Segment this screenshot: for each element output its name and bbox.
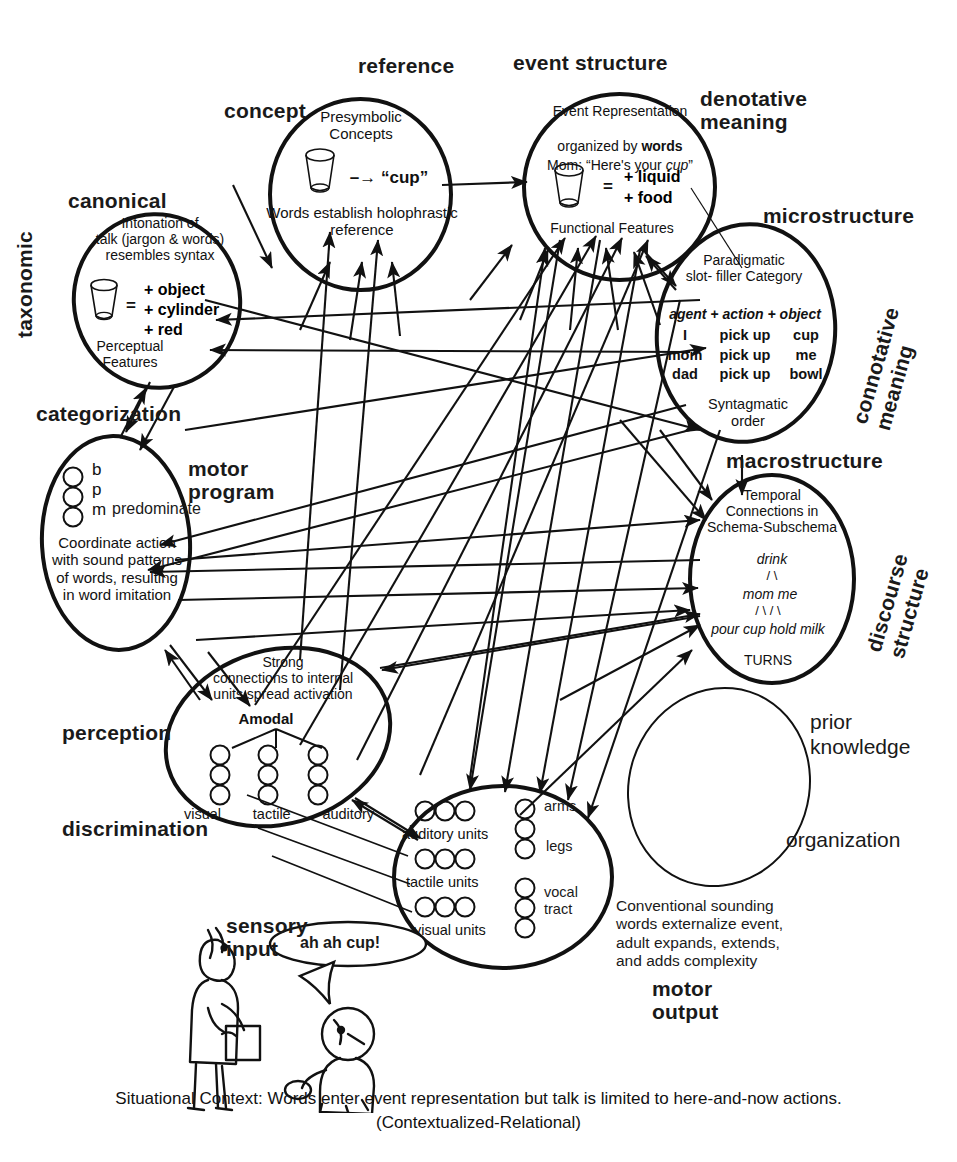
micro-cell-object-1: me bbox=[778, 346, 834, 366]
label-denotative-meaning: denotative meaning bbox=[700, 88, 807, 133]
table-row: dad pick up bowl bbox=[658, 365, 834, 385]
macro-tree-branch-2: / \ / \ bbox=[688, 604, 848, 619]
micro-bottom-text: Syntagmatic order bbox=[668, 396, 828, 429]
motor-unit-label-vocal-tract: vocal tract bbox=[544, 884, 578, 918]
canonical-feature-1: + cylinder bbox=[144, 300, 244, 320]
micro-frame: agent + action + object bbox=[652, 306, 838, 322]
speech-bubble-text: ah ah cup! bbox=[300, 934, 380, 953]
caption-line-1: Situational Context: Words enter event r… bbox=[0, 1088, 957, 1109]
categorization-bottom-text: Coordinate action with sound patterns of… bbox=[28, 534, 206, 603]
micro-table: I pick up cup mom pick up me dad pick up… bbox=[658, 326, 834, 385]
canonical-bottom-text: Perceptual Features bbox=[75, 338, 185, 370]
label-sensory-input: sensory input bbox=[226, 915, 308, 960]
micro-cell-action-0: pick up bbox=[712, 326, 778, 346]
sensory-unit-label-0: auditory units bbox=[402, 826, 488, 842]
canonical-feature-2: + red bbox=[144, 320, 244, 340]
label-concept: concept bbox=[224, 100, 306, 123]
micro-cell-agent-2: dad bbox=[658, 365, 712, 385]
macro-top-text: Temporal Connections in Schema-Subschema bbox=[682, 487, 862, 535]
micro-cell-object-2: bowl bbox=[778, 365, 834, 385]
caption-line-2: (Contextualized-Relational) bbox=[0, 1112, 957, 1133]
phoneme-units-icon bbox=[60, 466, 86, 528]
perception-modality-labels: visual tactile auditory bbox=[184, 806, 374, 822]
macro-turns: TURNS bbox=[692, 652, 844, 668]
perception-top-text: Strong connections to internal units spr… bbox=[168, 654, 398, 702]
motor-units-column-icon bbox=[512, 798, 538, 940]
macro-tree-mid: mom me bbox=[694, 586, 846, 602]
unit-row-icon bbox=[414, 848, 480, 870]
macro-tree-root: drink bbox=[696, 551, 848, 567]
micro-cell-action-1: pick up bbox=[712, 346, 778, 366]
label-motor-output: motor output bbox=[652, 978, 719, 1023]
unit-row-icon bbox=[414, 800, 480, 822]
label-categorization: categorization bbox=[36, 403, 181, 426]
cup-icon-canonical bbox=[88, 278, 121, 326]
concept-bottom-text: Words establish holophrastic reference bbox=[262, 204, 462, 239]
table-row: I pick up cup bbox=[658, 326, 834, 346]
label-macrostructure: macrostructure bbox=[726, 450, 883, 473]
canonical-equals: = bbox=[122, 296, 140, 316]
phoneme-label-1: p bbox=[92, 480, 106, 500]
phoneme-label-2: m bbox=[92, 500, 106, 520]
motor-unit-label-legs: legs bbox=[546, 838, 573, 855]
micro-cell-object-0: cup bbox=[778, 326, 834, 346]
perception-amodal: Amodal bbox=[196, 710, 336, 727]
categorization-phoneme-labels: b p m bbox=[92, 460, 106, 520]
label-microstructure: microstructure bbox=[763, 205, 914, 228]
categorization-phonemes bbox=[60, 466, 86, 532]
canonical-features: + object + cylinder + red bbox=[144, 280, 244, 340]
event-equals: = bbox=[600, 177, 616, 197]
event-line1: Event Representation bbox=[520, 103, 720, 119]
label-taxonomic: taxonomic bbox=[14, 231, 37, 338]
event-features: + liquid + food bbox=[624, 167, 716, 209]
unit-group: auditory units bbox=[414, 800, 488, 842]
modality-label-1: tactile bbox=[253, 806, 291, 822]
sensory-unit-label-1: tactile units bbox=[406, 874, 488, 890]
table-row: mom pick up me bbox=[658, 346, 834, 366]
label-motor-program: motor program bbox=[188, 458, 275, 503]
perception-unit-columns-icon bbox=[206, 744, 348, 806]
micro-cell-agent-0: I bbox=[658, 326, 712, 346]
event-feature-0: + liquid bbox=[624, 167, 716, 188]
macro-tree-leaves: pour cup hold milk bbox=[684, 621, 852, 637]
canonical-top-text: Intonation of talk (jargon & words) rese… bbox=[62, 215, 258, 263]
micro-cell-action-2: pick up bbox=[712, 365, 778, 385]
unit-group: tactile units bbox=[414, 848, 488, 890]
modality-label-2: auditory bbox=[322, 806, 374, 822]
concept-cup-word: –→ “cup” bbox=[330, 168, 448, 188]
label-prior-knowledge: prior knowledge bbox=[810, 710, 910, 760]
canonical-feature-0: + object bbox=[144, 280, 244, 300]
micro-cell-agent-1: mom bbox=[658, 346, 712, 366]
conventional-sounding-note: Conventional sounding words externalize … bbox=[616, 897, 783, 970]
label-reference: reference bbox=[358, 55, 454, 78]
label-canonical: canonical bbox=[68, 190, 167, 213]
cup-icon-event bbox=[552, 163, 586, 213]
label-organization: organization bbox=[786, 828, 900, 853]
macro-tree-branch-1: / \ bbox=[696, 569, 848, 584]
cup-icon-concept bbox=[303, 148, 337, 198]
event-bottom-text: Functional Features bbox=[522, 220, 702, 236]
phoneme-label-0: b bbox=[92, 460, 106, 480]
diagram-canvas: Presymbolic Concepts –→ “cup” Words esta… bbox=[0, 0, 957, 1162]
micro-top-text: Paradigmatic slot- filler Category bbox=[655, 252, 833, 284]
label-discrimination: discrimination bbox=[62, 818, 208, 841]
motor-unit-label-arms: arms bbox=[544, 798, 576, 815]
label-perception: perception bbox=[62, 722, 171, 745]
label-event-structure: event structure bbox=[513, 52, 668, 75]
event-feature-1: + food bbox=[624, 188, 716, 209]
